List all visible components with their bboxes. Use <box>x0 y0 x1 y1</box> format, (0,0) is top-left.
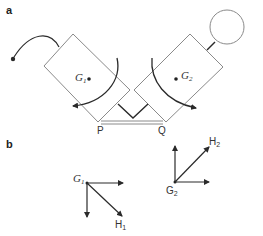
g1-h1-resultant-vector <box>87 183 122 216</box>
g1-label-a: G1 <box>75 71 86 85</box>
g2-center-dot <box>174 77 178 81</box>
g1-center-dot <box>87 77 91 81</box>
panel-b-label: b <box>6 138 13 150</box>
left-tail-cable <box>14 36 59 57</box>
point-p-label: P <box>97 125 104 136</box>
left-block <box>44 34 130 122</box>
left-tail-end <box>11 57 15 61</box>
g1-label-b: G1 <box>73 172 84 186</box>
right-knob <box>210 10 244 44</box>
g2-label-a: G2 <box>181 69 193 83</box>
right-knob-stem <box>207 42 215 50</box>
g2-label-b: G2 <box>166 185 178 197</box>
diagram-canvas: a G1 G2 P Q b G1 H1 G2 H2 <box>0 0 263 236</box>
panel-a-label: a <box>6 4 13 16</box>
h2-label: H2 <box>209 136 220 148</box>
h1-label: H1 <box>115 219 126 231</box>
hinge-v <box>118 104 148 118</box>
point-q-label: Q <box>158 125 166 136</box>
g2-h2-resultant-vector <box>175 147 209 182</box>
